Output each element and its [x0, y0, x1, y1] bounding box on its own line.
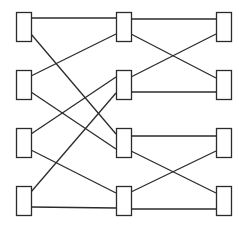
edge-l4-m2 [31, 93, 116, 192]
edge-l1-m3 [31, 34, 116, 134]
node-box-r2 [217, 71, 232, 100]
butterfly-network-diagram [0, 0, 239, 226]
node-box-r3 [217, 129, 232, 158]
node-box-m3 [117, 129, 132, 158]
node-box-r4 [217, 187, 232, 216]
node-box-l3 [17, 129, 32, 158]
node-box-l2 [17, 71, 32, 100]
node-box-l4 [17, 187, 32, 216]
node-box-m2 [117, 71, 132, 100]
edge-l3-m2 [31, 77, 116, 134]
edge-l4-m4 [31, 207, 116, 208]
node-box-r1 [217, 13, 232, 42]
edge-l3-m4 [31, 150, 116, 193]
edge-l2-m3 [31, 92, 116, 149]
node-box-l1 [17, 13, 32, 42]
node-box-m4 [117, 187, 132, 216]
edge-l2-m1 [31, 34, 116, 76]
node-box-m1 [117, 13, 132, 42]
edge-group [31, 18, 216, 209]
